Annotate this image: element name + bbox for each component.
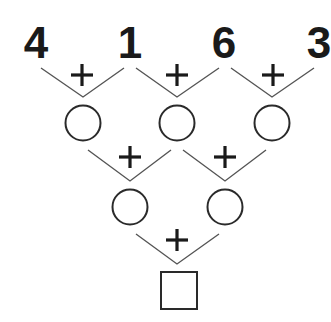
blank-circle[interactable] xyxy=(160,106,195,141)
number-3: 6 xyxy=(212,18,236,67)
number-1: 4 xyxy=(24,18,49,67)
plus-icon xyxy=(119,146,141,168)
plus-icon xyxy=(214,146,236,168)
plus-icon xyxy=(166,64,188,86)
blank-circle[interactable] xyxy=(208,190,243,225)
row2-plus-signs xyxy=(119,146,236,168)
number-2: 1 xyxy=(118,18,142,67)
plus-icon xyxy=(71,64,93,86)
blank-circle[interactable] xyxy=(113,190,148,225)
plus-icon xyxy=(166,229,188,251)
row2-connectors xyxy=(88,150,266,181)
blank-circle[interactable] xyxy=(66,106,101,141)
answer-box[interactable] xyxy=(161,272,197,309)
number-4: 3 xyxy=(307,18,331,67)
row2-blanks xyxy=(66,106,290,141)
plus-icon xyxy=(262,64,284,86)
blank-circle[interactable] xyxy=(255,106,290,141)
row3-blanks xyxy=(113,190,243,225)
top-row-numbers: 4 1 6 3 xyxy=(24,18,331,67)
addition-pyramid-diagram: 4 1 6 3 xyxy=(0,0,331,322)
